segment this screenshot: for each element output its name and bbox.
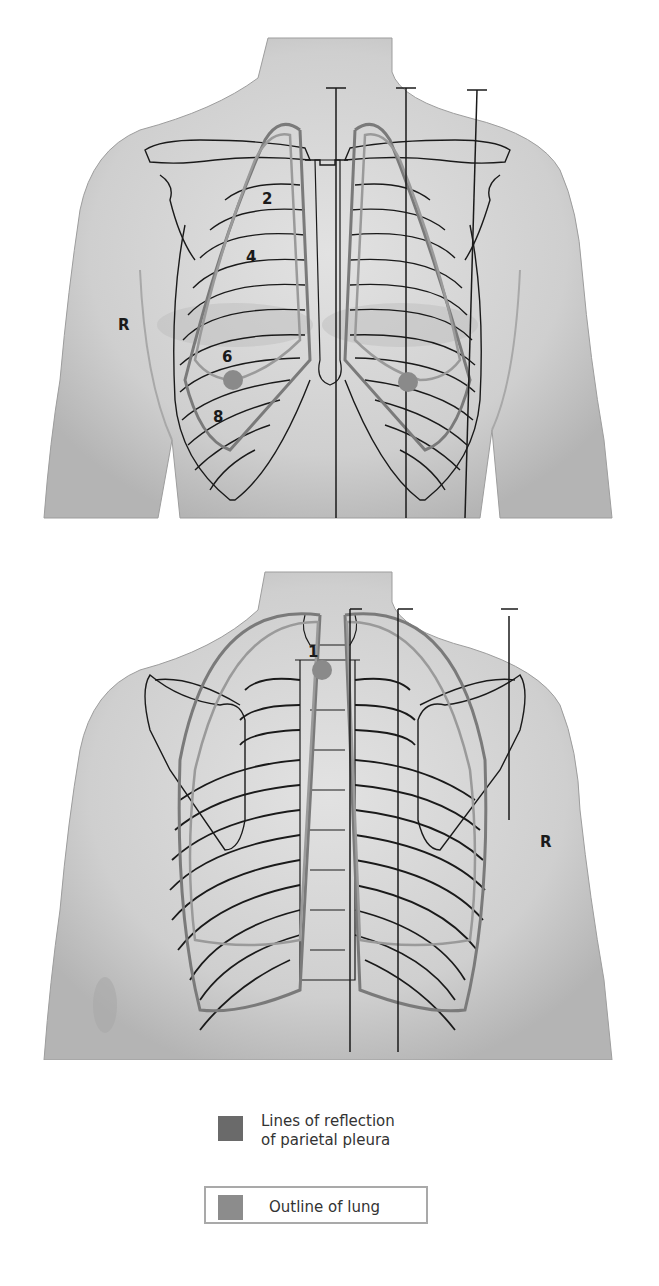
anterior-thorax-figure: R 2 4 6 8 bbox=[0, 0, 659, 540]
marker-dot-right bbox=[223, 370, 243, 390]
vertebra-label-1: 1 bbox=[308, 643, 318, 661]
rib-label-8: 8 bbox=[213, 408, 223, 426]
anterior-thorax-illustration: R 2 4 6 8 bbox=[0, 0, 659, 540]
side-label-r: R bbox=[540, 833, 552, 851]
rib-label-4: 4 bbox=[246, 248, 256, 266]
legend-label-pleura-line1: Lines of reflection bbox=[261, 1112, 395, 1131]
marker-dot-vertebra bbox=[312, 660, 332, 680]
legend-item-pleura: Lines of reflection of parietal pleura bbox=[218, 1116, 395, 1150]
posterior-thorax-figure: 1 R bbox=[0, 560, 659, 1060]
side-label-r: R bbox=[118, 316, 130, 334]
legend-label-pleura: Lines of reflection of parietal pleura bbox=[261, 1112, 395, 1150]
legend-item-lung: Outline of lung bbox=[218, 1195, 380, 1220]
posterior-thorax-illustration: 1 R bbox=[0, 560, 659, 1060]
legend-label-pleura-line2: of parietal pleura bbox=[261, 1131, 395, 1150]
lung-swatch-icon bbox=[218, 1195, 243, 1220]
torso-silhouette bbox=[44, 38, 612, 518]
marker-dot-left bbox=[398, 372, 418, 392]
pleura-swatch-icon bbox=[218, 1116, 243, 1141]
rib-label-6: 6 bbox=[222, 348, 232, 366]
rib-label-2: 2 bbox=[262, 190, 272, 208]
legend-label-lung: Outline of lung bbox=[269, 1198, 380, 1217]
